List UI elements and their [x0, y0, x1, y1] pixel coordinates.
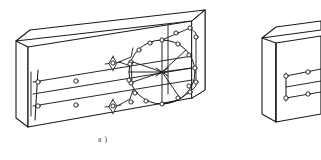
junction-node-icon [74, 79, 78, 83]
junction-node-icon [133, 91, 137, 95]
figure-root: a ) [0, 0, 321, 160]
junction-node-icon [111, 61, 115, 65]
junction-node-icon [74, 103, 78, 107]
junction-node-icon [306, 92, 310, 96]
junction-node-icon [176, 96, 180, 100]
block-a-end-face [192, 10, 205, 98]
junction-node-icon [160, 102, 164, 106]
block-b-side-face [262, 38, 276, 122]
junction-node-icon [188, 90, 192, 94]
junction-node-icon [144, 99, 148, 103]
junction-node-icon [306, 70, 310, 74]
junction-node-icon [187, 84, 191, 88]
junction-node-icon [36, 80, 40, 84]
junction-node-icon [160, 38, 164, 42]
junction-node-icon [137, 48, 141, 52]
junction-node-icon [284, 96, 288, 100]
junction-node-icon [194, 80, 198, 84]
junction-node-icon [174, 31, 178, 35]
junction-node-icon [148, 41, 152, 45]
junction-node-icon [188, 26, 192, 30]
junction-node-icon [36, 104, 40, 108]
junction-node-icon [284, 74, 288, 78]
junction-node-icon [129, 100, 133, 104]
junction-node-icon [128, 62, 132, 66]
junction-node-icon [111, 104, 115, 108]
junction-node-icon [194, 35, 198, 39]
junction-node-icon [127, 78, 131, 82]
junction-node-icon [193, 66, 197, 70]
isometric-block-diagram [0, 0, 321, 160]
block-b-front-face [276, 36, 321, 122]
junction-node-icon [176, 42, 180, 46]
junction-node-icon [187, 53, 191, 57]
block-a-side-face [16, 41, 28, 127]
